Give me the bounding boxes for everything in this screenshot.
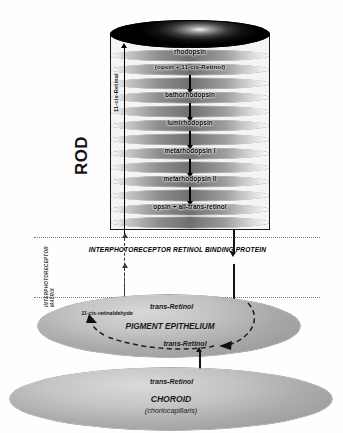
rod-disc xyxy=(111,217,269,228)
ipm-arrow-retinol-down-top xyxy=(233,230,235,252)
retinal-recycle-label: 11-cis-Retinal xyxy=(113,73,119,112)
cascade-label-bathorhodopsin: bathorhodopsin xyxy=(110,91,270,98)
choroid-name: CHOROID xyxy=(121,394,221,404)
cascade-label-rhodopsin: rhodopsin xyxy=(110,48,270,55)
ipm-side-line2: MATRIX xyxy=(50,288,55,307)
choroid-subtitle: (choriocapillaris) xyxy=(121,406,221,415)
rod-base-line xyxy=(110,229,270,230)
cascade-arrow xyxy=(189,131,190,145)
cascade-arrow xyxy=(189,75,190,89)
cascade-label-opsin-11cis: (opsin + 11-cis-Retinol) xyxy=(110,63,270,70)
retinal-recycle-arrow xyxy=(124,48,125,234)
pigment-epithelium-name: PIGMENT EPITHELIUM xyxy=(110,322,230,331)
rpe-trans-retinol-loop-label: trans-Retinol xyxy=(145,340,225,347)
rod-top-cap xyxy=(110,20,270,48)
ipm-arrow-retinal-up-seg xyxy=(124,268,125,298)
rod-outer-segment: rhodopsin (opsin + 11-cis-Retinol) batho… xyxy=(110,20,270,230)
rod-side-label: ROD xyxy=(72,136,92,175)
interphotoreceptor-matrix-side-label: INTERPHOTORECEPTOR MATRIX xyxy=(44,246,55,307)
cascade-arrow xyxy=(189,187,190,201)
irbp-label: INTERPHOTORECEPTOR RETINOL BINDING PROTE… xyxy=(60,246,295,253)
cascade-label-opsin-alltrans: opsin + all-trans-retinol xyxy=(110,203,270,210)
cascade-label-metarhodopsin-2: metarhodopsin II xyxy=(110,175,270,182)
cascade-arrow xyxy=(189,103,190,117)
rpe-11cis-retinaldehyde-label: 11-cis-retinaldehyde xyxy=(62,310,152,316)
cascade-label-lumirhodopsin: lumirhodopsin xyxy=(110,119,270,126)
rpe-trans-retinol-top-label: trans-Retinol xyxy=(150,303,270,310)
choroid-trans-retinol-label: trans-Retinol xyxy=(150,378,250,385)
cascade-arrow xyxy=(189,159,190,173)
cascade-label-metarhodopsin-1: metarhodopsin I xyxy=(110,147,270,154)
ipm-upper-boundary xyxy=(34,237,320,238)
ipm-side-line1: INTERPHOTORECEPTOR xyxy=(44,246,49,307)
diagram-canvas: rhodopsin (opsin + 11-cis-Retinol) batho… xyxy=(0,0,343,433)
